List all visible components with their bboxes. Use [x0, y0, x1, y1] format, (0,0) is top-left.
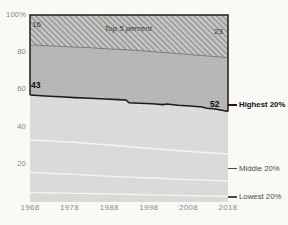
- middle-20-label-row: Middle 20%: [228, 164, 280, 174]
- leader-dash-highest: [228, 104, 237, 105]
- x-tick-1968: 1968: [14, 204, 46, 212]
- highest-value-2018: 52: [210, 100, 219, 109]
- top5-value-2018: 23: [214, 28, 223, 36]
- x-tick-1988: 1988: [93, 204, 125, 212]
- x-tick-2018: 2018: [212, 204, 244, 212]
- y-tick-100: 100%: [0, 11, 26, 19]
- leader-dash-middle: [228, 168, 237, 169]
- middle-20-label: Middle 20%: [239, 165, 280, 173]
- lowest-20-label: Lowest 20%: [239, 193, 281, 201]
- highest-20-label-row: Highest 20%: [228, 100, 285, 110]
- y-tick-60: 60: [0, 85, 26, 93]
- top5-value-1968: 16: [32, 21, 41, 29]
- leader-dash-lowest: [228, 196, 237, 197]
- x-tick-2008: 2008: [172, 204, 204, 212]
- y-tick-20: 20: [0, 160, 26, 168]
- x-tick-1978: 1978: [54, 204, 86, 212]
- lowest-20-label-row: Lowest 20%: [228, 192, 281, 202]
- y-tick-40: 40: [0, 123, 26, 131]
- x-tick-1998: 1998: [133, 204, 165, 212]
- highest-value-1968: 43: [31, 81, 40, 90]
- income-distribution-area-chart: 100% 80 60 40 20 1968 1978 1988 1998 200…: [0, 0, 288, 225]
- y-tick-80: 80: [0, 48, 26, 56]
- top5-area-label: Top 5 percent: [90, 25, 166, 33]
- highest-20-label: Highest 20%: [239, 101, 285, 109]
